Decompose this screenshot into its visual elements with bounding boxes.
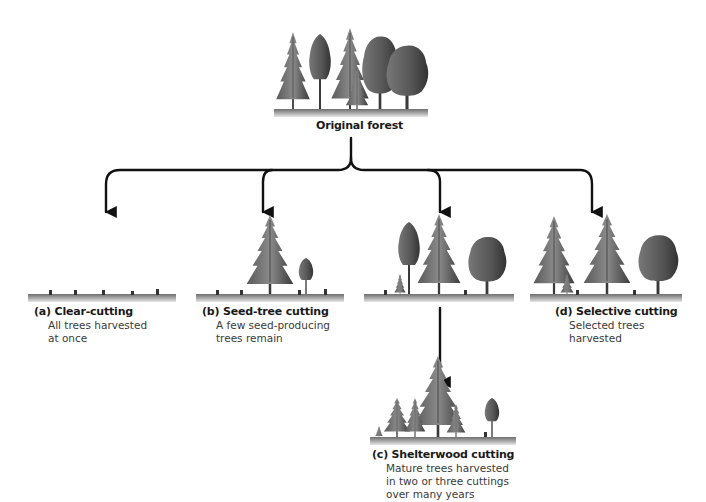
method-description-line: harvested <box>555 332 678 345</box>
method-title: (a) Clear-cutting <box>34 305 147 319</box>
method-description-line: in two or three cuttings <box>372 475 514 488</box>
branching-arrows <box>106 138 592 382</box>
seed-tree-cutting-illustration <box>196 215 344 302</box>
original-forest-illustration <box>274 28 428 117</box>
method-title: (b) Seed-tree cutting <box>202 305 330 319</box>
clear-cutting-illustration <box>28 289 176 302</box>
method-title: (d) Selective cutting <box>555 305 678 319</box>
shelterwood-first-cut-illustration <box>364 214 514 302</box>
method-description-line: trees remain <box>202 332 330 345</box>
method-title: (c) Shelterwood cutting <box>372 448 514 462</box>
method-description-line: A few seed-producing <box>202 319 330 332</box>
ground-strip <box>274 109 428 117</box>
method-label-selective-cutting: (d) Selective cutting Selected trees har… <box>555 305 678 345</box>
selective-cutting-illustration <box>530 214 682 302</box>
forest-harvest-diagram <box>0 0 706 502</box>
method-label-seed-tree-cutting: (b) Seed-tree cutting A few seed-produci… <box>202 305 330 345</box>
shelterwood-regrowth-illustration <box>370 356 516 445</box>
method-label-clear-cutting: (a) Clear-cutting All trees harvested at… <box>34 305 147 345</box>
method-description-line: All trees harvested <box>34 319 147 332</box>
method-description-line: Selected trees <box>555 319 678 332</box>
method-label-shelterwood-cutting: (c) Shelterwood cutting Mature trees har… <box>372 448 514 501</box>
method-description-line: over many years <box>372 488 514 501</box>
method-description-line: at once <box>34 332 147 345</box>
method-description-line: Mature trees harvested <box>372 462 514 475</box>
original-forest-label: Original forest <box>316 119 403 132</box>
